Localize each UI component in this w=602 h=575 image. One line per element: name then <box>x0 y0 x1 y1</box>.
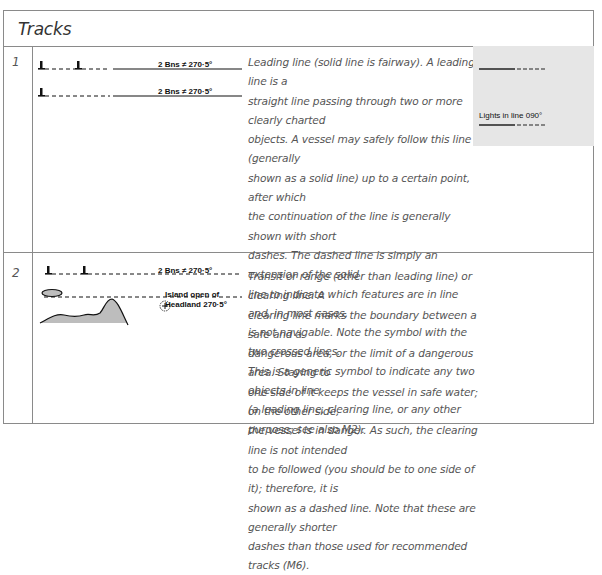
symbol-label: 2 Bns ≠ 270·5° <box>158 266 212 275</box>
description-line: Leading line (solid line is fairway). A … <box>248 53 478 92</box>
column-divider <box>32 46 33 423</box>
beacon-icon <box>75 61 82 70</box>
leading-line-symbol <box>38 55 248 105</box>
leading-line-sample <box>479 66 549 72</box>
description-line: objects. A vessel may safely follow this… <box>248 130 478 169</box>
description-line: one side of it keeps the vessel in safe … <box>248 383 483 422</box>
illustration-label: Lights in line 090° <box>479 111 542 120</box>
symbol-label: Island open of <box>165 290 219 299</box>
description-line: dashes than those used for recommended t… <box>248 537 483 575</box>
description-line: the continuation of the line is generall… <box>248 207 478 246</box>
symbol-label: 2 Bns ≠ 270·5° <box>158 60 212 69</box>
beacon-icon <box>38 61 45 70</box>
beacon-icon <box>38 88 45 97</box>
table-header: Tracks <box>4 11 593 47</box>
beacon-icon <box>81 266 88 275</box>
headland-icon <box>40 299 128 325</box>
description-line: straight line passing through two or mor… <box>248 92 478 131</box>
tracks-table: Tracks 1 2 Bns ≠ 270·5° 2 Bns ≠ 270·5° L… <box>3 10 594 424</box>
beacon-icon <box>45 266 52 275</box>
island-icon <box>42 290 62 297</box>
symbol-label: 2 Bns ≠ 270·5° <box>158 87 212 96</box>
row-number: 1 <box>12 55 20 69</box>
description-line: to be followed (you should be to one sid… <box>248 460 483 499</box>
symbol-label: Headland 270·5° <box>165 300 227 309</box>
description-line: the vessel is in danger. As such, the cl… <box>248 421 483 460</box>
row-number: 2 <box>12 266 20 280</box>
chart-illustration: Lights in line 090° <box>473 46 594 146</box>
row-description: Transit or range (other than leading lin… <box>248 267 483 575</box>
leading-line-sample <box>479 122 549 128</box>
section-title: Tracks <box>18 19 71 39</box>
description-line: clearing line marks the boundary between… <box>248 306 483 345</box>
description-line: dangerous area, or the limit of a danger… <box>248 344 483 383</box>
description-line: shown as a dashed line. Note that these … <box>248 499 483 538</box>
description-line: shown as a solid line) up to a certain p… <box>248 169 478 208</box>
description-line: Transit or range (other than leading lin… <box>248 267 483 306</box>
